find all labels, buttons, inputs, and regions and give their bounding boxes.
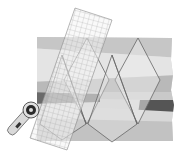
quilting-illustration xyxy=(0,0,182,160)
